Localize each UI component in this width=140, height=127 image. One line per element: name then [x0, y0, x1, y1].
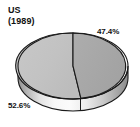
chart-title-block: US (1989)	[8, 5, 35, 27]
chart-title: US	[8, 5, 35, 16]
chart-subtitle-year: (1989)	[8, 16, 35, 27]
pie-label-47-4: 47.4%	[97, 27, 119, 36]
pie-label-52-6: 52.6%	[8, 101, 30, 110]
pie-chart-figure: US (1989)	[0, 0, 140, 127]
